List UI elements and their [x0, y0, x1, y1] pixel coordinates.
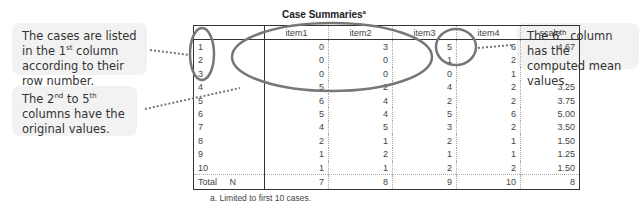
table-cell: 1.50	[521, 134, 580, 147]
table-cell: 2	[457, 54, 521, 67]
row-label: 4	[194, 81, 265, 94]
table-cell: 2	[393, 161, 457, 175]
header-cell: item1	[265, 26, 329, 40]
table-cell: 4	[265, 121, 329, 134]
title-footnote-marker: a	[363, 9, 366, 15]
table-cell: 2	[457, 81, 521, 94]
table-row: 821211.50	[194, 134, 580, 147]
callout-text: columns have the original values.	[22, 107, 125, 136]
total-n-text: N	[230, 177, 237, 187]
total-cell: 7	[265, 175, 329, 189]
row-label: 6	[194, 107, 265, 120]
header-cell: scale	[521, 26, 580, 40]
table-cell	[521, 54, 580, 67]
total-row: Total N 7 8 9 10 8	[194, 175, 580, 189]
table-cell: 0	[265, 40, 329, 54]
table-cell: 0	[393, 67, 457, 80]
table-cell: 6	[457, 107, 521, 120]
table-cell: 4	[329, 94, 393, 107]
total-text: Total	[198, 177, 217, 187]
table-cell: 1	[457, 134, 521, 147]
table-cell: 3.25	[521, 81, 580, 94]
table-cell: 2	[457, 94, 521, 107]
table-cell: 2	[329, 81, 393, 94]
table-cell: 3.50	[521, 121, 580, 134]
row-label: 7	[194, 121, 265, 134]
callout-original-values: The 2nd to 5th columns have the original…	[12, 86, 137, 136]
total-cell: 9	[393, 175, 457, 189]
table-cell: 2	[265, 134, 329, 147]
table-cell: 0	[265, 54, 329, 67]
row-label: 5	[194, 94, 265, 107]
table-row: 103564.67	[194, 40, 580, 54]
table-cell: 0	[329, 54, 393, 67]
row-label: 3	[194, 67, 265, 80]
callout-sup: nd	[54, 92, 63, 100]
dotted-connector	[150, 50, 190, 55]
table-row: 564223.75	[194, 94, 580, 107]
table-cell: 5.00	[521, 107, 580, 120]
table-row: 912111.25	[194, 148, 580, 161]
table-cell: 3	[329, 40, 393, 54]
table-cell: 2	[393, 94, 457, 107]
table-cell: 5	[265, 107, 329, 120]
table-cell	[521, 67, 580, 80]
table-cell: 1.25	[521, 148, 580, 161]
callout-text: to	[63, 92, 82, 106]
table-row: 654565.00	[194, 107, 580, 120]
table-cell: 2	[457, 121, 521, 134]
table-cell: 5	[393, 40, 457, 54]
header-cell: item3	[393, 26, 457, 40]
table-cell: 1	[457, 148, 521, 161]
table-cell: 5	[329, 121, 393, 134]
table-cell: 2	[393, 134, 457, 147]
table-cell: 1	[329, 161, 393, 175]
table-cell: 2	[329, 148, 393, 161]
table-cell: 1	[457, 67, 521, 80]
callout-text: 1	[59, 44, 66, 58]
row-label: 1	[194, 40, 265, 54]
header-cell	[194, 26, 265, 40]
table-cell: 2	[457, 161, 521, 175]
header-cell: item2	[329, 26, 393, 40]
case-summaries-table: item1 item2 item3 item4 scale 103564.672…	[193, 25, 580, 190]
header-row: item1 item2 item3 item4 scale	[194, 26, 580, 40]
header-cell: item4	[457, 26, 521, 40]
total-cell: 10	[457, 175, 521, 189]
table-cell: 1	[265, 148, 329, 161]
table-cell: 1	[393, 148, 457, 161]
table-cell: 6	[265, 94, 329, 107]
table-cell: 4.67	[521, 40, 580, 54]
table-cell: 5	[265, 81, 329, 94]
table-title-text: Case Summaries	[282, 9, 363, 20]
table-row: 20012	[194, 54, 580, 67]
table-row: 1011221.50	[194, 161, 580, 175]
table-cell: 1	[329, 134, 393, 147]
table-cell: 4	[329, 107, 393, 120]
table-footnote: a. Limited to first 10 cases.	[210, 193, 311, 203]
callout-text: The	[22, 92, 47, 106]
table-cell: 4	[393, 81, 457, 94]
table-cell: 0	[265, 67, 329, 80]
table-cell: 3.75	[521, 94, 580, 107]
table-row: 30001	[194, 67, 580, 80]
table-cell: 3	[393, 121, 457, 134]
table-cell: 5	[393, 107, 457, 120]
table-row: 452423.25	[194, 81, 580, 94]
callout-sup: th	[89, 92, 96, 100]
table-cell: 1.50	[521, 161, 580, 175]
row-label: 9	[194, 148, 265, 161]
row-label: 8	[194, 134, 265, 147]
table-cell: 1	[393, 54, 457, 67]
callout-case-rows: The cases are listed in the 1st column a…	[12, 23, 147, 75]
table-row: 745323.50	[194, 121, 580, 134]
total-cell: 8	[329, 175, 393, 189]
table-cell: 0	[329, 67, 393, 80]
table-title: Case Summariesa	[282, 9, 366, 20]
total-label: Total N	[194, 175, 265, 189]
table-cell: 1	[265, 161, 329, 175]
row-label: 2	[194, 54, 265, 67]
table-cell: 6	[457, 40, 521, 54]
total-cell: 8	[521, 175, 580, 189]
row-label: 10	[194, 161, 265, 175]
